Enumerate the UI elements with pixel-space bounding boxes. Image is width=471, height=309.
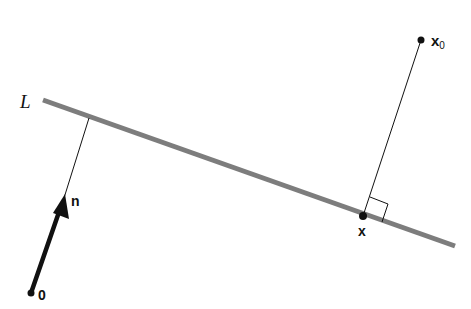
point-x0-label-sub: 0 [439, 40, 445, 51]
normal-vector-shaft [31, 212, 59, 293]
normal-extension-line [64, 118, 89, 198]
origin-point [28, 290, 35, 297]
normal-vector-label: n [71, 193, 80, 209]
line-L [43, 100, 455, 246]
line-L-label: L [19, 91, 31, 112]
normal-vector-arrowhead-icon [53, 194, 69, 219]
point-x0-label: x0 [431, 32, 445, 51]
perpendicular-line [363, 40, 421, 216]
point-x0 [418, 37, 425, 44]
foot-point-x [359, 212, 367, 220]
foot-point-label: x [358, 223, 366, 239]
origin-label: 0 [38, 287, 46, 303]
line-normal-diagram: L n 0 x x0 [0, 0, 471, 309]
